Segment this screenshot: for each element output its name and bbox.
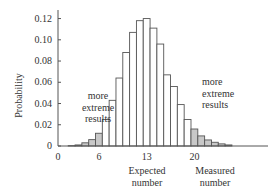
left-tail-line-1: more [68, 90, 128, 102]
y-tick-label: 0 [47, 140, 52, 151]
left-tail-annotation: more extreme results [68, 90, 128, 125]
histogram-bar [150, 28, 157, 146]
left-tail-line-2: extreme [68, 102, 128, 114]
left-tail-line-3: results [68, 113, 128, 125]
measured-line-2: number [185, 177, 245, 189]
histogram-bar [177, 105, 184, 146]
y-tick-label: 0.08 [35, 55, 53, 66]
x-tick-label: 0 [48, 151, 68, 162]
histogram-bar [171, 87, 178, 146]
y-tick-label: 0.06 [35, 76, 53, 87]
right-tail-line-1: more [202, 76, 262, 88]
y-tick-label: 0.10 [35, 34, 53, 45]
histogram-bar [184, 119, 191, 146]
y-tick-label: 0.02 [35, 119, 53, 130]
expected-line-2: number [117, 177, 177, 189]
x-tick-label: 20 [184, 151, 204, 162]
histogram-bar [211, 142, 218, 146]
histogram-bar [191, 129, 198, 146]
x-tick-label: 13 [137, 151, 157, 162]
x-tick-label: 6 [89, 151, 109, 162]
y-tick-label: 0.12 [35, 13, 53, 24]
measured-line-1: Measured [185, 165, 245, 177]
histogram-bar [96, 133, 103, 146]
y-axis-label: Probability [13, 66, 24, 126]
histogram-bar [198, 136, 205, 146]
histogram-bar [157, 44, 164, 146]
y-tick-label: 0.04 [35, 98, 53, 109]
right-tail-line-3: results [202, 99, 262, 111]
expected-number-label: Expected number [117, 165, 177, 188]
histogram-bar [143, 19, 150, 146]
measured-number-label: Measured number [185, 165, 245, 188]
histogram-bar [136, 21, 143, 146]
histogram-bar [89, 140, 96, 146]
right-tail-annotation: more extreme results [196, 76, 262, 111]
histogram-bar [130, 32, 137, 146]
histogram-bar [164, 75, 171, 146]
histogram-bar [205, 140, 212, 146]
right-tail-line-2: extreme [202, 88, 262, 100]
expected-line-1: Expected [117, 165, 177, 177]
